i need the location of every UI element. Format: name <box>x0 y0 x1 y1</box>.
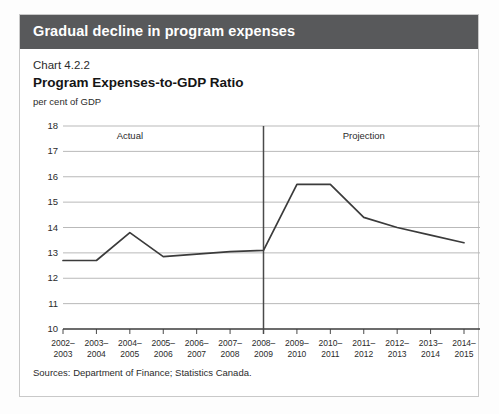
x-axis-tick-label-line: 2014– <box>441 338 487 349</box>
region-label-projection: Projection <box>324 130 404 141</box>
x-axis-tick-label-line: 2015 <box>441 349 487 360</box>
y-axis-tick-label: 16 <box>36 172 58 182</box>
figure-card: Gradual decline in program expenses Char… <box>19 14 479 397</box>
y-axis-tick-label: 13 <box>36 248 58 258</box>
y-axis-tick-label: 15 <box>36 197 58 207</box>
y-axis-tick-label: 17 <box>36 146 58 156</box>
chart-plot-area: 101112131415161718 2002–20032003–2004200… <box>20 15 480 398</box>
y-axis-tick-label: 18 <box>36 121 58 131</box>
y-axis-tick-label: 10 <box>36 324 58 334</box>
y-axis-tick-label: 11 <box>36 299 58 309</box>
y-axis-tick-label: 14 <box>36 223 58 233</box>
x-axis-tick-label: 2014–2015 <box>441 338 487 359</box>
y-axis-tick-label: 12 <box>36 273 58 283</box>
region-label-actual: Actual <box>90 130 170 141</box>
gridlines <box>63 126 480 304</box>
source-note: Sources: Department of Finance; Statisti… <box>33 367 252 378</box>
